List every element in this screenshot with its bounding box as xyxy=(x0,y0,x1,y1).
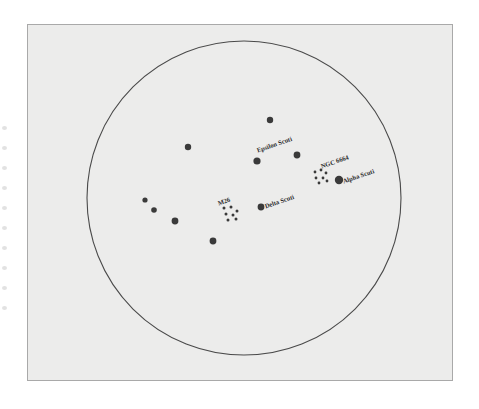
scan-artifact xyxy=(2,306,7,310)
scan-artifact-margin xyxy=(0,0,14,409)
star-map-panel xyxy=(27,24,453,381)
scan-artifact xyxy=(2,286,7,290)
star-chart-figure: Epsilon ScutiNGC 6664Alpha ScutiDelta Sc… xyxy=(0,0,479,409)
scan-artifact xyxy=(2,266,7,270)
scan-artifact xyxy=(2,206,7,210)
scan-artifact xyxy=(2,146,7,150)
scan-artifact xyxy=(2,166,7,170)
scan-artifact xyxy=(2,226,7,230)
scan-artifact xyxy=(2,186,7,190)
scan-artifact xyxy=(2,126,7,130)
scan-artifact xyxy=(2,246,7,250)
